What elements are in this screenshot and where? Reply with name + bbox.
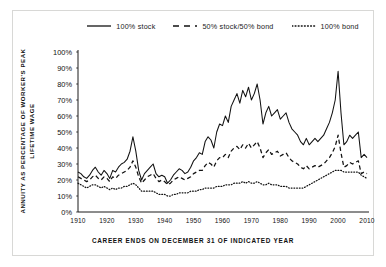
x-tick-label: 1940	[157, 217, 173, 224]
plot-svg: 0%10%20%30%40%50%60%70%80%90%100% 191019…	[0, 0, 386, 267]
y-tick-label: 100%	[53, 48, 72, 57]
x-tick-label: 2010	[359, 217, 375, 224]
chart-figure: 100% stock 50% stock/50% bond 100% bond …	[0, 0, 386, 267]
data-series-group	[78, 71, 367, 196]
x-tick-label: 1990	[301, 217, 317, 224]
x-tick-label: 1970	[244, 217, 260, 224]
y-tick-label: 60%	[57, 112, 72, 121]
x-tick-label: 2000	[330, 217, 346, 224]
x-tick-label: 1960	[215, 217, 231, 224]
y-axis-tick-labels: 0%10%20%30%40%50%60%70%80%90%100%	[53, 48, 72, 217]
y-tick-label: 50%	[57, 128, 72, 137]
y-tick-label: 30%	[57, 160, 72, 169]
y-tick-label: 70%	[57, 96, 72, 105]
y-tick-label: 80%	[57, 80, 72, 89]
plot-area: 0%10%20%30%40%50%60%70%80%90%100% 191019…	[0, 0, 386, 267]
x-tick-label: 1950	[186, 217, 202, 224]
series-line-1	[78, 71, 367, 183]
x-tick-label: 1930	[128, 217, 144, 224]
x-tick-label: 1910	[70, 217, 86, 224]
y-tick-label: 40%	[57, 144, 72, 153]
x-tick-label: 1920	[99, 217, 115, 224]
y-tick-label: 90%	[57, 64, 72, 73]
y-tick-label: 0%	[61, 208, 72, 217]
x-axis-tick-labels: 1910192019301940195019601970198019902000…	[70, 217, 375, 224]
series-line-3	[78, 170, 367, 196]
y-tick-label: 10%	[57, 192, 72, 201]
x-axis-title: CAREER ENDS ON DECEMBER 31 OF INDICATED …	[12, 237, 374, 244]
y-tick-label: 20%	[57, 176, 72, 185]
x-tick-label: 1980	[273, 217, 289, 224]
